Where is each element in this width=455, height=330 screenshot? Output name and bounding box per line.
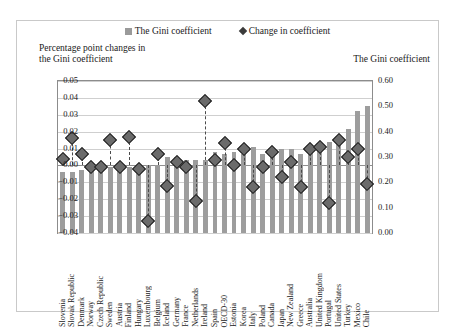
plot-area bbox=[57, 80, 373, 234]
category-label: United States bbox=[334, 284, 343, 327]
gridline bbox=[58, 233, 372, 234]
y-axis-tick-label: 0.05 bbox=[44, 75, 78, 85]
y2-axis-tick-label: 0.30 bbox=[378, 151, 412, 161]
data-point-diamond bbox=[284, 155, 298, 169]
data-point-diamond bbox=[113, 160, 127, 174]
y-axis-tick-label: −0.02 bbox=[44, 193, 78, 203]
data-point-diamond bbox=[198, 94, 212, 108]
left-axis-caption-line1: Percentage point changes in bbox=[39, 43, 145, 54]
data-point-diamond bbox=[217, 136, 231, 150]
data-point-diamond bbox=[236, 141, 250, 155]
category-axis-labels: SloveniaSlovak RepublicDenmarkNorwayCzec… bbox=[57, 235, 373, 327]
data-point-diamond bbox=[151, 147, 165, 161]
left-axis-caption-line2: the Gini coefficient bbox=[39, 54, 145, 65]
chart-root: The Gini coefficient Change in coefficie… bbox=[0, 0, 455, 330]
chart-legend: The Gini coefficient Change in coefficie… bbox=[17, 26, 438, 36]
legend-label-change: Change in coefficient bbox=[249, 26, 331, 36]
y-axis-tick-label: −0.01 bbox=[44, 176, 78, 186]
category-label: Hungary bbox=[134, 299, 143, 327]
data-point-diamond bbox=[322, 196, 336, 210]
data-point-diamond bbox=[313, 140, 327, 154]
category-label: United Kingdom bbox=[315, 273, 324, 327]
data-point-diamond bbox=[227, 158, 241, 172]
category-label: Poland bbox=[258, 305, 267, 327]
category-label: OECD-30 bbox=[220, 295, 229, 327]
left-axis-caption: Percentage point changes in the Gini coe… bbox=[39, 43, 145, 65]
category-label: Portugal bbox=[324, 300, 333, 327]
right-axis-caption: The Gini coefficient bbox=[353, 54, 430, 64]
category-label: Slovenia bbox=[58, 299, 67, 327]
y2-axis-tick-label: 0.60 bbox=[378, 75, 412, 85]
legend-item-gini: The Gini coefficient bbox=[125, 26, 212, 36]
category-label: Australia bbox=[305, 298, 314, 327]
category-label: Turkey bbox=[343, 304, 352, 327]
data-point-diamond bbox=[351, 141, 365, 155]
category-label: France bbox=[181, 305, 190, 327]
category-label: New Zealand bbox=[286, 284, 295, 327]
data-point-diamond bbox=[122, 130, 136, 144]
bar-swatch-icon bbox=[125, 28, 132, 35]
data-point-diamond bbox=[360, 177, 374, 191]
data-point-diamond bbox=[255, 160, 269, 174]
category-label: Austria bbox=[115, 303, 124, 327]
data-point-diamond bbox=[103, 133, 117, 147]
chart-frame: The Gini coefficient Change in coefficie… bbox=[16, 20, 439, 312]
y2-axis-tick-label: 0.00 bbox=[378, 227, 412, 237]
y-axis-tick-label: 0.00 bbox=[44, 159, 78, 169]
category-label: Ireland bbox=[200, 304, 209, 327]
diamond-stem bbox=[148, 165, 149, 221]
category-label: Czech Republic bbox=[96, 276, 105, 327]
category-label: Denmark bbox=[77, 297, 86, 327]
y-axis-tick-label: 0.01 bbox=[44, 143, 78, 153]
y2-axis-tick-label: 0.40 bbox=[378, 126, 412, 136]
data-point-diamond bbox=[275, 170, 289, 184]
legend-label-gini: The Gini coefficient bbox=[135, 26, 212, 36]
category-label: Belgium bbox=[153, 299, 162, 327]
data-point-diamond bbox=[132, 162, 146, 176]
data-point-diamond bbox=[94, 160, 108, 174]
category-label: Netherlands bbox=[191, 288, 200, 327]
category-label: Japan bbox=[277, 309, 286, 327]
y2-axis-tick-label: 0.50 bbox=[378, 100, 412, 110]
category-label: Italy bbox=[248, 312, 257, 327]
category-label: Chile bbox=[362, 310, 371, 327]
category-label: Germany bbox=[172, 297, 181, 327]
category-label: Iceland bbox=[162, 303, 171, 327]
category-label: Norway bbox=[86, 301, 95, 327]
data-point-diamond bbox=[294, 180, 308, 194]
y2-axis-tick-label: 0.10 bbox=[378, 202, 412, 212]
category-label: Canada bbox=[267, 303, 276, 327]
y-axis-tick-label: 0.04 bbox=[44, 92, 78, 102]
category-label: Estonia bbox=[229, 303, 238, 327]
data-point-diamond bbox=[208, 153, 222, 167]
category-label: Spain bbox=[210, 309, 219, 327]
y-axis-tick-label: 0.03 bbox=[44, 109, 78, 119]
category-label: Finland bbox=[124, 303, 133, 327]
category-label: Slovak Republic bbox=[67, 274, 76, 327]
legend-item-change: Change in coefficient bbox=[240, 26, 331, 36]
data-point-diamond bbox=[265, 145, 279, 159]
y-axis-tick-label: 0.02 bbox=[44, 126, 78, 136]
category-label: Luxembourg bbox=[143, 286, 152, 327]
data-point-diamond bbox=[189, 194, 203, 208]
data-point-diamond bbox=[332, 133, 346, 147]
y-axis-tick-label: −0.03 bbox=[44, 210, 78, 220]
category-label: Greece bbox=[296, 304, 305, 327]
data-point-diamond bbox=[246, 180, 260, 194]
data-point-diamond bbox=[141, 214, 155, 228]
data-point-diamond bbox=[160, 179, 174, 193]
diamond-layer bbox=[58, 81, 372, 233]
y2-axis-tick-label: 0.20 bbox=[378, 176, 412, 186]
category-label: Korea bbox=[239, 307, 248, 327]
diamond-swatch-icon bbox=[238, 27, 246, 35]
diamond-stem bbox=[205, 101, 206, 165]
category-label: Sweden bbox=[105, 302, 114, 327]
category-label: Mexico bbox=[353, 303, 362, 327]
